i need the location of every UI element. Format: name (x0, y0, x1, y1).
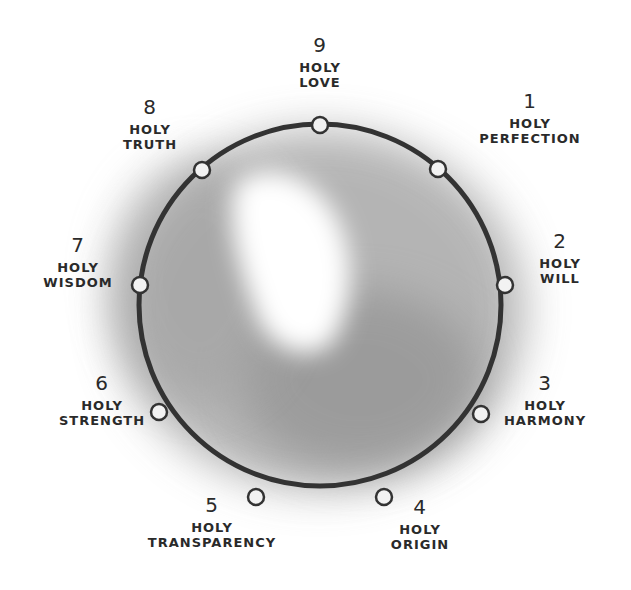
point-number: 9 (299, 34, 341, 57)
point-number: 7 (43, 234, 112, 257)
point-line2: PERFECTION (479, 132, 580, 147)
point-number: 6 (59, 372, 145, 395)
point-number: 1 (479, 90, 580, 113)
point-line1: HOLY (391, 523, 449, 538)
label-point-3: 3 HOLY HARMONY (504, 372, 586, 429)
point-line1: HOLY (59, 399, 145, 414)
point-number: 3 (504, 372, 586, 395)
point-line2: WILL (539, 272, 581, 287)
point-number: 4 (391, 496, 449, 519)
label-point-4: 4 HOLY ORIGIN (391, 496, 449, 553)
node-4 (376, 489, 392, 505)
label-point-9: 9 HOLY LOVE (299, 34, 341, 91)
point-line2: ORIGIN (391, 538, 449, 553)
node-7 (132, 277, 148, 293)
label-point-8: 8 HOLY TRUTH (123, 96, 177, 153)
point-line2: LOVE (299, 76, 341, 91)
point-line1: HOLY (123, 123, 177, 138)
node-1 (430, 161, 446, 177)
node-2 (497, 277, 513, 293)
label-point-7: 7 HOLY WISDOM (43, 234, 112, 291)
point-line2: TRANSPARENCY (148, 536, 276, 551)
node-3 (473, 406, 489, 422)
point-line2: TRUTH (123, 138, 177, 153)
point-line1: HOLY (504, 399, 586, 414)
node-6 (151, 404, 167, 420)
point-line2: STRENGTH (59, 414, 145, 429)
point-line2: WISDOM (43, 276, 112, 291)
point-line1: HOLY (479, 117, 580, 132)
point-number: 2 (539, 230, 581, 253)
point-line1: HOLY (43, 261, 112, 276)
node-9 (312, 117, 328, 133)
point-line1: HOLY (148, 521, 276, 536)
label-point-6: 6 HOLY STRENGTH (59, 372, 145, 429)
watercolor-wash (110, 130, 525, 490)
point-number: 5 (148, 494, 276, 517)
point-number: 8 (123, 96, 177, 119)
point-line2: HARMONY (504, 414, 586, 429)
node-8 (194, 162, 210, 178)
point-line1: HOLY (299, 61, 341, 76)
point-line1: HOLY (539, 257, 581, 272)
label-point-2: 2 HOLY WILL (539, 230, 581, 287)
label-point-1: 1 HOLY PERFECTION (479, 90, 580, 147)
label-point-5: 5 HOLY TRANSPARENCY (148, 494, 276, 551)
